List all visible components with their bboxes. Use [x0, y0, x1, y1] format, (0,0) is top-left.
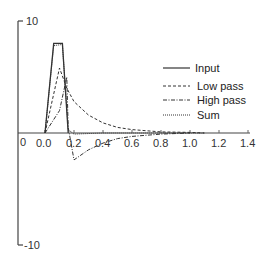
x-tick-5: 1.0	[182, 137, 197, 149]
legend-item-high-pass: High pass	[163, 94, 246, 106]
svg-text:Sum: Sum	[197, 109, 220, 121]
svg-text:Low pass: Low pass	[197, 80, 244, 92]
series-sum	[45, 45, 205, 135]
x-tick-1: 0.2	[66, 137, 81, 149]
chart: 10 -10 0 0.0 0.2 0.4 0.6 0.8 1.0 1.2 1.4…	[0, 0, 267, 259]
legend-item-sum: Sum	[163, 109, 220, 121]
x-tick-0: 0.0	[36, 137, 51, 149]
x-tick-7: 1.4	[240, 137, 255, 149]
legend: Input Low pass High pass Sum	[163, 62, 246, 121]
y-tick-bottom: -10	[24, 239, 40, 251]
legend-item-input: Input	[163, 62, 219, 74]
x-tick-4: 0.8	[153, 137, 168, 149]
x-tick-6: 1.2	[211, 137, 226, 149]
y-tick-top: 10	[26, 15, 38, 27]
origin-label: 0	[20, 136, 26, 148]
x-axis: 0 0.0 0.2 0.4 0.6 0.8 1.0 1.2 1.4	[18, 130, 255, 149]
svg-text:High pass: High pass	[197, 94, 246, 106]
x-tick-3: 0.6	[124, 137, 139, 149]
legend-item-low-pass: Low pass	[163, 80, 244, 92]
svg-text:Input: Input	[195, 62, 219, 74]
